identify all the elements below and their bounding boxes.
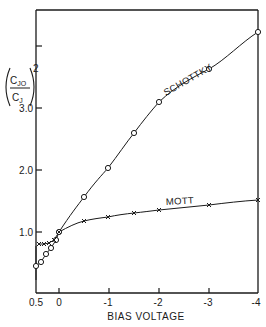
schottky-curve [36, 32, 258, 266]
x-tick-4: -3 [204, 297, 213, 308]
chart: 1.0 2.0 3.0 0.5 0 -1 -2 -3 -4 BIAS VOLTA… [0, 0, 266, 327]
x-tick-1: 0 [56, 297, 62, 308]
x-tick-3: -2 [154, 297, 163, 308]
y-tick-2: 2.0 [19, 165, 33, 176]
x-tick-0: 0.5 [29, 297, 43, 308]
x-axis-tick-labels: 0.5 0 -1 -2 -3 -4 [29, 297, 261, 308]
plot-frame [36, 10, 258, 293]
mott-label: MOTT [166, 195, 195, 207]
x-tick-2: -1 [104, 297, 113, 308]
y-axis-tick-labels: 1.0 2.0 3.0 [19, 103, 33, 238]
x-axis-title: BIAS VOLTAGE [107, 311, 184, 322]
y-axis-title: CJO CJ 2 [6, 63, 39, 106]
schottky-markers [33, 29, 260, 268]
schottky-label: SCHOTTKY [162, 61, 215, 98]
x-tick-5: -4 [252, 297, 261, 308]
y-tick-3: 3.0 [19, 103, 33, 114]
y-title-exponent: 2 [33, 63, 39, 74]
mott-markers [37, 198, 260, 246]
y-title-num: CJO [10, 75, 27, 87]
y-tick-1: 1.0 [19, 227, 33, 238]
x-axis-ticks [59, 288, 209, 293]
mott-curve [36, 200, 258, 280]
y-title-den: CJ [12, 92, 23, 104]
